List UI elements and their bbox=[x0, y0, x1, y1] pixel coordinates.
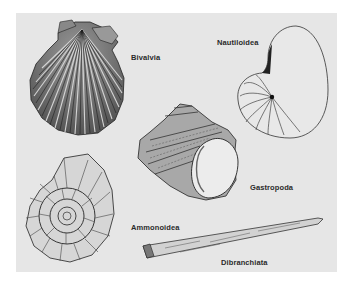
label-nautiloidea: Nautiloidea bbox=[217, 38, 259, 47]
label-dibranchiata: Dibranchiata bbox=[221, 258, 268, 267]
fossil-illustrations bbox=[0, 0, 351, 287]
scallop-shell-icon bbox=[30, 20, 124, 135]
label-bivalvia: Bivalvia bbox=[131, 53, 160, 62]
label-gastropoda: Gastropoda bbox=[250, 183, 293, 192]
label-ammonoidea: Ammonoidea bbox=[131, 223, 180, 232]
turban-snail-shell-icon bbox=[138, 104, 238, 200]
ammonite-shell-icon bbox=[26, 154, 114, 262]
